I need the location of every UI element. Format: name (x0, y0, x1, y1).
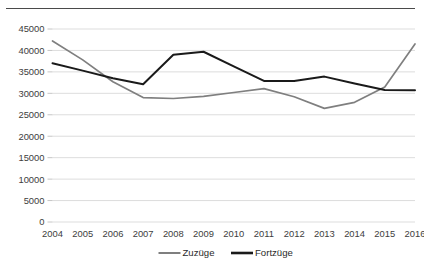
y-axis-tick-label: 15000 (18, 152, 44, 163)
legend-label-fortz-ge: Fortzüge (255, 247, 293, 258)
x-axis-labels: 2004200520062007200820092010201120122013… (42, 228, 424, 239)
x-axis-tick-label: 2010 (223, 228, 244, 239)
y-axis-tick-label: 25000 (18, 109, 44, 120)
series-line-fortz-ge (53, 52, 416, 91)
gridline-group (53, 29, 416, 222)
x-axis-tick-label: 2012 (284, 228, 305, 239)
x-axis-tick-label: 2009 (193, 228, 214, 239)
y-axis-tick-label: 30000 (18, 88, 44, 99)
x-axis-tick-label: 2005 (72, 228, 93, 239)
series-line-zuz-ge (53, 41, 416, 108)
tickmark-group (48, 29, 53, 222)
x-axis-tick-label: 2014 (344, 228, 365, 239)
y-axis-tick-label: 45000 (18, 23, 44, 34)
y-axis-tick-label: 5000 (24, 195, 45, 206)
chart-legend: ZuzügeFortzüge (159, 247, 293, 258)
plot-area-wrapper: 0500010000150002000025000300003500040000… (0, 0, 424, 271)
x-axis-tick-label: 2007 (133, 228, 154, 239)
x-axis-tick-label: 2008 (163, 228, 184, 239)
y-axis-tick-label: 20000 (18, 131, 44, 142)
x-axis-tick-label: 2004 (42, 228, 63, 239)
y-axis-tick-label: 40000 (18, 45, 44, 56)
y-axis-tick-label: 0 (39, 216, 44, 227)
y-axis-labels: 0500010000150002000025000300003500040000… (18, 23, 44, 227)
series-group (53, 41, 416, 108)
x-axis-tick-label: 2011 (254, 228, 274, 239)
legend-label-zuz-ge: Zuzüge (183, 247, 215, 258)
x-axis-tick-label: 2015 (374, 228, 395, 239)
x-axis-tick-label: 2016 (405, 228, 424, 239)
x-axis-tick-label: 2006 (102, 228, 123, 239)
y-axis-tick-label: 10000 (18, 174, 44, 185)
x-axis-tick-label: 2013 (314, 228, 335, 239)
y-axis-tick-label: 35000 (18, 66, 44, 77)
chart-svg: 0500010000150002000025000300003500040000… (0, 0, 424, 271)
line-chart: 0500010000150002000025000300003500040000… (0, 0, 424, 271)
